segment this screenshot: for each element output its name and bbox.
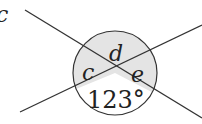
angle-label-d: d [109, 41, 123, 66]
angle-diagram: c d c e 123° [0, 0, 202, 124]
angle-label-e: e [131, 62, 144, 87]
angle-label-123: 123° [87, 86, 145, 114]
angle-label-c: c [82, 60, 94, 85]
corner-label-fragment: c [0, 2, 8, 27]
